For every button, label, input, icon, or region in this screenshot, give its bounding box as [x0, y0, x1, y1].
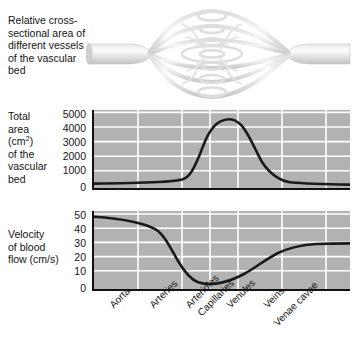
y-tick: 40 [74, 224, 86, 235]
y-tick: 20 [74, 252, 86, 263]
y-tick: 50 [74, 210, 86, 221]
vascular-bed-diagram-icon [86, 4, 352, 100]
x-axis-labels: Aorta Arteries Arterioles Capillaries Ve… [0, 299, 352, 364]
velocity-y-ticks: 50 40 30 20 10 0 [52, 208, 86, 296]
vessel-diagram-caption: Relative cross-sectional area of differe… [8, 14, 90, 77]
panel-total-area: Total area (cm2) of the vascular bed 500… [0, 104, 352, 202]
vascular-bed-figure: Relative cross-sectional area of differe… [0, 0, 352, 364]
total-area-curve-svg [94, 110, 350, 188]
total-area-curve [94, 119, 350, 185]
panel-vessel-diagram: Relative cross-sectional area of differe… [0, 0, 352, 100]
vertical-gridlines [138, 211, 326, 289]
y-tick: 0 [80, 182, 86, 193]
y-tick: 5000 [63, 109, 86, 120]
y-tick: 3000 [63, 137, 86, 148]
vertical-gridlines [138, 110, 326, 188]
total-area-y-ticks: 5000 4000 3000 2000 1000 0 [52, 104, 86, 194]
total-area-plot-area [92, 110, 350, 190]
y-tick: 30 [74, 238, 86, 249]
y-tick: 2000 [63, 151, 86, 162]
y-tick: 1000 [63, 165, 86, 176]
velocity-curve [94, 217, 350, 284]
velocity-curve-svg [94, 211, 350, 289]
y-tick: 10 [74, 266, 86, 277]
y-tick: 4000 [63, 123, 86, 134]
y-tick: 0 [80, 283, 86, 294]
